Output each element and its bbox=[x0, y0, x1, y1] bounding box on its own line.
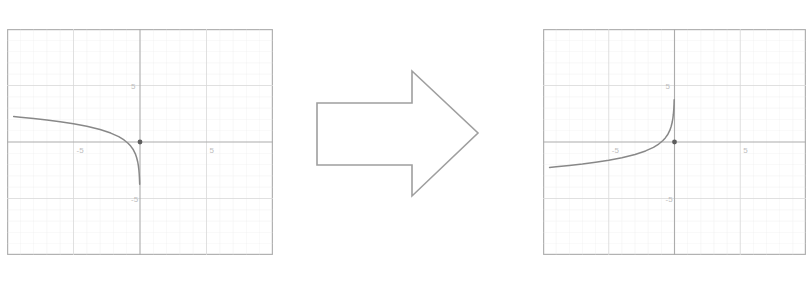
figure-canvas: -555-5 -555-5 bbox=[0, 0, 810, 281]
annotation-point bbox=[672, 140, 677, 145]
right-block-arrow-icon bbox=[312, 66, 482, 200]
annotation-point bbox=[138, 140, 143, 145]
x-tick-label: 5 bbox=[743, 146, 748, 155]
y-tick-label: -5 bbox=[666, 195, 674, 204]
y-tick-label: -5 bbox=[131, 195, 139, 204]
x-tick-label: -5 bbox=[77, 146, 85, 155]
x-tick-label: -5 bbox=[612, 146, 620, 155]
plot-original-svg: -555-5 bbox=[7, 29, 273, 255]
y-tick-label: 5 bbox=[666, 82, 671, 91]
y-tick-label: 5 bbox=[131, 82, 136, 91]
plot-reflected-svg: -555-5 bbox=[543, 29, 806, 255]
plot-original: -555-5 bbox=[7, 29, 273, 255]
x-tick-label: 5 bbox=[210, 146, 215, 155]
plot-reflected: -555-5 bbox=[543, 29, 806, 255]
data-curve bbox=[550, 100, 675, 168]
arrow-shape bbox=[317, 71, 478, 196]
right-block-arrow bbox=[312, 66, 482, 200]
